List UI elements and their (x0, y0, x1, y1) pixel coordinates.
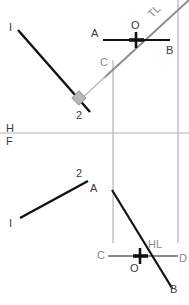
front-label-d: D (179, 253, 187, 264)
top-point-o-marker (129, 32, 144, 48)
front-label-a: A (90, 183, 97, 194)
geometry-figure (0, 0, 189, 305)
front-label-o: O (130, 263, 139, 274)
fold-label-h: H (6, 123, 14, 134)
top-label-b: B (166, 45, 173, 56)
top-label-i: I (9, 22, 12, 33)
front-line-i2 (20, 181, 88, 218)
top-label-a: A (91, 28, 98, 39)
top-label-2: 2 (76, 110, 82, 121)
top-label-o: O (131, 20, 140, 31)
fold-label-f: F (6, 136, 13, 147)
front-label-hl: HL (148, 239, 162, 250)
front-label-b: B (170, 284, 177, 295)
front-label-i: I (9, 218, 12, 229)
front-line-ab (112, 190, 172, 288)
drawing-canvas: I 2 A B C O TL H F 2 I A B C D O HL (0, 0, 189, 305)
front-label-c: C (97, 250, 105, 261)
front-label-2: 2 (76, 168, 82, 179)
top-label-c: C (100, 57, 108, 68)
